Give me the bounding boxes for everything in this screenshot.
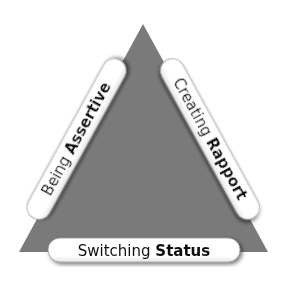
triangle-diagram: Being Assertive Creating Rapport Switchi… [0,0,287,285]
triangle-shape [19,24,268,252]
svg-text:Switching Status: Switching Status [78,242,211,260]
side-bottom-switching-status: Switching Status [48,238,240,262]
side-bottom-bold-text: Status [155,242,210,260]
side-bottom-regular-text: Switching [78,242,156,260]
